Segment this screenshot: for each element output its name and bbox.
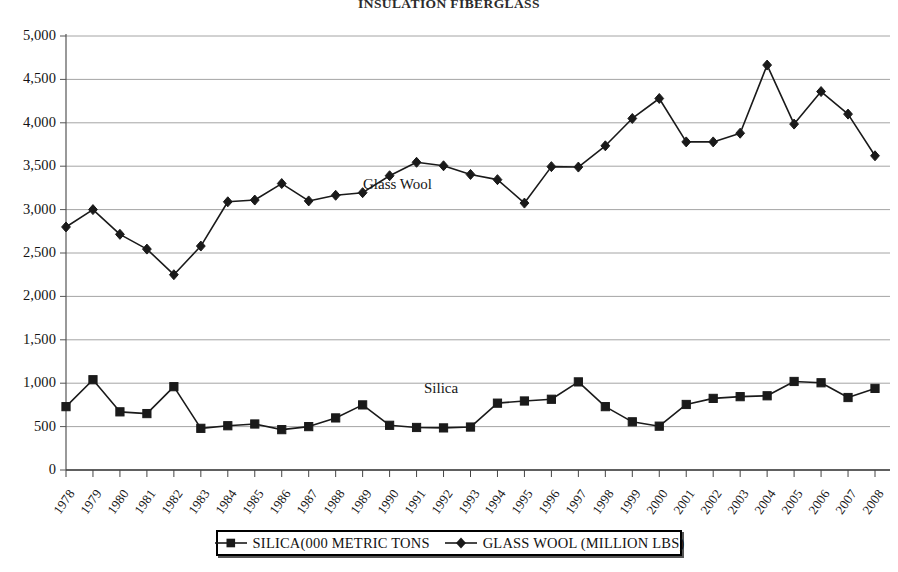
grid-lines <box>66 36 890 470</box>
chart-legend: SILICA(000 METRIC TONSGLASS WOOL (MILLIO… <box>216 530 682 556</box>
legend-square-marker-icon <box>214 536 248 550</box>
y-axis-tick-label: 2,000 <box>0 287 56 304</box>
legend-label: SILICA(000 METRIC TONS <box>253 535 430 552</box>
legend-diamond-marker-icon <box>444 536 478 550</box>
legend-entry[interactable]: GLASS WOOL (MILLION LBS) <box>444 535 685 552</box>
y-axis-tick-label: 1,500 <box>0 331 56 348</box>
axis-lines <box>66 34 890 470</box>
y-axis-tick-label: 5,000 <box>0 27 56 44</box>
y-axis-tick-label: 2,500 <box>0 244 56 261</box>
y-axis-tick-label: 500 <box>0 418 56 435</box>
y-axis-tick-label: 1,000 <box>0 374 56 391</box>
x-axis-ticks <box>66 470 875 477</box>
y-axis-tick-label: 3,000 <box>0 201 56 218</box>
y-axis-tick-label: 3,500 <box>0 157 56 174</box>
y-axis-tick-label: 0 <box>0 461 56 478</box>
chart-root: INSULATION FIBERGLASS 05001,0001,5002,00… <box>0 0 898 572</box>
plot-area <box>0 0 898 572</box>
data-series-layer <box>62 60 880 434</box>
legend-label: GLASS WOOL (MILLION LBS) <box>483 535 685 552</box>
y-axis-tick-label: 4,000 <box>0 114 56 131</box>
y-axis-tick-label: 4,500 <box>0 70 56 87</box>
series-annotation-silica: Silica <box>424 380 458 397</box>
series-annotation-glass-wool: Glass Wool <box>363 176 432 193</box>
legend-entry[interactable]: SILICA(000 METRIC TONS <box>214 535 430 552</box>
